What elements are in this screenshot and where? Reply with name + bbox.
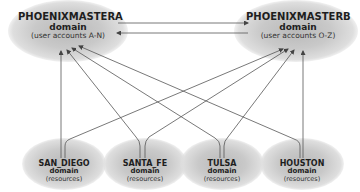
- arrow-sandiego-to-b: [65, 49, 283, 158]
- node-name: PHOENIXMASTERA: [18, 12, 118, 23]
- arrow-santafe-to-b: [145, 49, 288, 158]
- node-description: (resources): [114, 176, 176, 183]
- node-description: (resources): [271, 176, 333, 183]
- node-description: (user accounts A-N): [18, 32, 118, 40]
- node-houston: HOUSTON domain (resources): [271, 160, 333, 183]
- node-santa-fe: SANTA_FE domain (resources): [114, 160, 176, 183]
- node-tulsa: TULSA domain (resources): [191, 160, 253, 183]
- node-description: (user accounts O-Z): [246, 32, 350, 40]
- node-description: (resources): [191, 176, 253, 183]
- node-name: PHOENIXMASTERB: [246, 12, 350, 23]
- node-san-diego: SAN_DIEGO domain (resources): [33, 160, 95, 183]
- trust-diagram: PHOENIXMASTERA domain (user accounts A-N…: [0, 0, 360, 192]
- node-description: (resources): [33, 176, 95, 183]
- arrow-tulsa-to-b: [224, 50, 294, 158]
- arrow-santafe-to-a: [67, 50, 140, 158]
- node-phoenixmasterb: PHOENIXMASTERB domain (user accounts O-Z…: [246, 12, 350, 40]
- node-phoenixmastera: PHOENIXMASTERA domain (user accounts A-N…: [18, 12, 118, 40]
